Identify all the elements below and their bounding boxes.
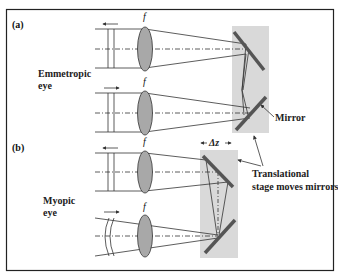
case-label-emmetropic: Emmetropic eye — [38, 68, 91, 92]
lens-icon — [138, 91, 153, 135]
stage-note-line1: Translational — [252, 167, 338, 180]
stage-note-line2: stage moves mirrors — [252, 180, 338, 193]
lens-icon — [138, 27, 153, 71]
delta-z-label: Δz — [209, 136, 219, 149]
lens-icon — [138, 151, 153, 193]
focal-length-label: f — [143, 11, 146, 22]
translational-stage-a — [232, 26, 269, 133]
focal-length-label: f — [143, 76, 146, 87]
optical-setup-diagram — [0, 0, 338, 274]
case-label-myopic: Myopic eye — [43, 195, 75, 219]
case-label-line1: Myopic — [43, 195, 75, 207]
case-label-line2: eye — [38, 80, 91, 92]
panel-label-b: (b) — [12, 142, 24, 153]
focal-length-label: f — [143, 201, 146, 212]
lens-icon — [138, 215, 153, 257]
case-label-line1: Emmetropic — [38, 68, 91, 80]
translational-stage-b — [200, 150, 238, 258]
stage-note: Translational stage moves mirrors — [252, 167, 338, 193]
focal-length-label: f — [143, 136, 146, 147]
mirror-label: Mirror — [275, 111, 305, 124]
panel-label-a: (a) — [12, 19, 24, 30]
case-label-line2: eye — [43, 207, 75, 219]
